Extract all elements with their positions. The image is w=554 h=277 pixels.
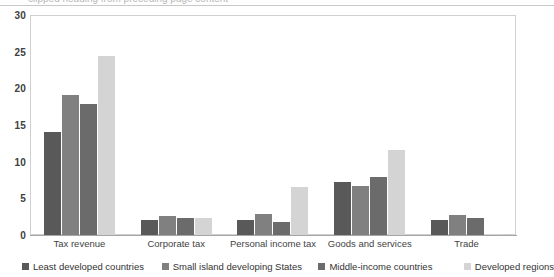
bar [431, 220, 448, 235]
legend-item-label: Developed regions [475, 261, 554, 272]
bar [334, 182, 351, 235]
bar-group [321, 15, 418, 235]
y-axis-tick-15: 15 [0, 120, 26, 131]
bar-group [31, 15, 128, 235]
top-divider-rule [0, 5, 554, 6]
x-axis-category-label: Corporate tax [128, 238, 225, 252]
y-axis-labels: 302520151050 [0, 15, 26, 235]
bar [467, 218, 484, 235]
legend-item-label: Small island developing States [173, 261, 302, 272]
bar [449, 215, 466, 235]
bar [141, 220, 158, 235]
legend-swatch-icon [162, 263, 169, 270]
bar [352, 186, 369, 235]
bar [98, 56, 115, 235]
y-axis-tick-30: 30 [0, 10, 26, 21]
bar [273, 222, 290, 235]
bar [237, 220, 254, 235]
x-axis-category-label: Goods and services [321, 238, 418, 252]
bar-group [128, 15, 225, 235]
bar [159, 216, 176, 235]
bar-group-bars [128, 15, 225, 235]
bar [370, 177, 387, 235]
bar-chart: clipped heading from preceding page cont… [0, 0, 554, 277]
legend-swatch-icon [318, 263, 325, 270]
bar [177, 218, 194, 235]
x-axis-line [30, 235, 517, 236]
legend-item[interactable]: Least developed countries [22, 261, 144, 272]
y-axis-tick-25: 25 [0, 46, 26, 57]
bar-groups [31, 15, 515, 235]
y-axis-tick-10: 10 [0, 156, 26, 167]
legend-item[interactable]: Developed regions [464, 261, 554, 272]
y-axis-tick-5: 5 [0, 193, 26, 204]
bar [485, 234, 502, 235]
legend-swatch-icon [464, 263, 471, 270]
x-axis-category-label: Tax revenue [31, 238, 128, 252]
bar [62, 95, 79, 235]
bar [195, 218, 212, 235]
legend-item[interactable]: Middle-income countries [318, 261, 432, 272]
x-axis-category-label: Trade [418, 238, 515, 252]
top-clipped-text-label: clipped heading from preceding page cont… [28, 0, 228, 4]
bar-group [418, 15, 515, 235]
bar-group-bars [31, 15, 128, 235]
legend-item[interactable]: Small island developing States [162, 261, 302, 272]
bar [255, 214, 272, 235]
bar [291, 187, 308, 235]
x-axis-category-labels: Tax revenueCorporate taxPersonal income … [31, 238, 515, 252]
y-axis-tick-0: 0 [0, 230, 26, 241]
bar [80, 104, 97, 235]
bar [44, 132, 61, 235]
legend-item-label: Least developed countries [33, 261, 144, 272]
chart-legend: Least developed countriesSmall island de… [0, 259, 554, 273]
legend-swatch-icon [22, 263, 29, 270]
bar-group [225, 15, 322, 235]
bar-group-bars [225, 15, 322, 235]
bar [388, 150, 405, 235]
bar-group-bars [418, 15, 515, 235]
y-axis-tick-20: 20 [0, 83, 26, 94]
legend-item-label: Middle-income countries [329, 261, 432, 272]
bar-group-bars [321, 15, 418, 235]
x-axis-category-label: Personal income tax [225, 238, 322, 252]
